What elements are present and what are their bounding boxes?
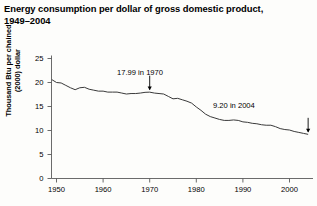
arrow-last-head [306, 129, 310, 133]
x-tick-label: 1950 [42, 185, 72, 194]
y-tick-label: 20 [24, 78, 44, 87]
y-tick-label: 0 [24, 174, 44, 183]
x-tick-label: 1990 [228, 185, 258, 194]
plot-area [0, 0, 317, 206]
y-tick-label: 15 [24, 102, 44, 111]
annotation-last-2004: 9.20 in 2004 [213, 101, 255, 110]
x-tick-label: 1980 [181, 185, 211, 194]
axes-group [48, 56, 314, 183]
y-tick-label: 5 [24, 150, 44, 159]
y-tick-label: 10 [24, 126, 44, 135]
chart-svg [0, 0, 317, 206]
x-tick-label: 2000 [275, 185, 305, 194]
y-tick-label: 25 [24, 54, 44, 63]
data-series-line [52, 80, 308, 135]
arrow-peak-head [148, 86, 152, 90]
x-tick-label: 1960 [88, 185, 118, 194]
data-line-group [52, 80, 308, 135]
annotation-peak-1970: 17.99 in 1970 [117, 68, 163, 77]
x-tick-label: 1970 [135, 185, 165, 194]
chart-page: Energy consumption per dollar of gross d… [0, 0, 317, 206]
